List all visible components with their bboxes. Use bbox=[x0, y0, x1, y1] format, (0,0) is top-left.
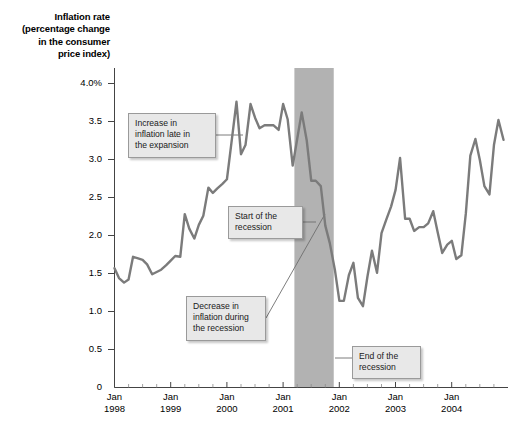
x-tick-year-2004: 2004 bbox=[422, 403, 482, 415]
x-tick-year-2002: 2002 bbox=[309, 403, 369, 415]
x-tick-label-1998: Jan 1998 bbox=[85, 391, 145, 414]
y-tick-label-3.0: 3.0 bbox=[62, 154, 102, 164]
annotation-decrease-line-2: inflation during bbox=[193, 312, 259, 323]
annotation-increase-line-1: Increase in bbox=[135, 118, 209, 129]
annotation-end-of-recession: End of the recession bbox=[352, 346, 421, 379]
annotation-decrease-line-3: the recession bbox=[193, 323, 259, 334]
y-tick-label-3.5: 3.5 bbox=[62, 116, 102, 126]
x-tick-year-2001: 2001 bbox=[253, 403, 313, 415]
annotation-end-line-1: End of the bbox=[359, 351, 414, 362]
annotation-increase-line-2: inflation late in bbox=[135, 129, 209, 140]
annotation-start-of-recession: Start of the recession bbox=[228, 206, 303, 239]
y-tick-label-2.0: 2.0 bbox=[62, 230, 102, 240]
x-tick-month-1998: Jan bbox=[85, 391, 145, 403]
x-tick-year-2000: 2000 bbox=[197, 403, 257, 415]
x-tick-month-1999: Jan bbox=[141, 391, 201, 403]
x-tick-year-1998: 1998 bbox=[85, 403, 145, 415]
inflation-rate-chart-figure: Inflation rate (percentage change in the… bbox=[0, 0, 513, 435]
x-tick-label-2000: Jan 2000 bbox=[197, 391, 257, 414]
x-axis-major-ticks bbox=[115, 382, 452, 388]
x-tick-month-2001: Jan bbox=[253, 391, 313, 403]
x-tick-label-1999: Jan 1999 bbox=[141, 391, 201, 414]
x-tick-label-2004: Jan 2004 bbox=[422, 391, 482, 414]
annotation-decrease-in-inflation: Decrease in inflation during the recessi… bbox=[186, 296, 266, 341]
annotation-increase-in-inflation: Increase in inflation late in the expans… bbox=[128, 113, 216, 158]
x-tick-year-2003: 2003 bbox=[366, 403, 426, 415]
x-tick-label-2003: Jan 2003 bbox=[366, 391, 426, 414]
x-tick-label-2002: Jan 2002 bbox=[309, 391, 369, 414]
annotation-start-line-2: recession bbox=[235, 222, 296, 233]
x-tick-year-1999: 1999 bbox=[141, 403, 201, 415]
y-tick-label-2.5: 2.5 bbox=[62, 192, 102, 202]
x-tick-month-2003: Jan bbox=[366, 391, 426, 403]
y-tick-label-0.5: 0.5 bbox=[62, 344, 102, 354]
annotation-increase-line-3: the expansion bbox=[135, 140, 209, 151]
y-tick-label-4.0: 4.0% bbox=[62, 78, 102, 88]
x-tick-label-2001: Jan 2001 bbox=[253, 391, 313, 414]
x-axis-minor-ticks bbox=[129, 384, 494, 388]
y-axis-ticks bbox=[108, 84, 115, 350]
y-tick-label-1.0: 1.0 bbox=[62, 306, 102, 316]
x-tick-month-2002: Jan bbox=[309, 391, 369, 403]
y-tick-label-1.5: 1.5 bbox=[62, 268, 102, 278]
x-tick-month-2004: Jan bbox=[422, 391, 482, 403]
annotation-start-line-1: Start of the bbox=[235, 211, 296, 222]
annotation-end-line-2: recession bbox=[359, 362, 414, 373]
x-tick-month-2000: Jan bbox=[197, 391, 257, 403]
annotation-decrease-line-1: Decrease in bbox=[193, 301, 259, 312]
